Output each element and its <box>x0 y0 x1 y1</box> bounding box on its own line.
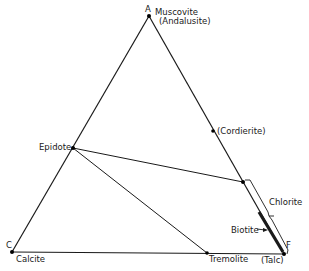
vertex-a-letter: A <box>145 4 151 14</box>
ternary-diagram: A Muscovite (Andalusite) Epidote (Cordie… <box>0 0 309 271</box>
edge-a-c <box>12 16 149 252</box>
point-a <box>147 14 151 18</box>
vertex-f-letter: F <box>286 240 291 250</box>
point-cordierite <box>211 129 215 133</box>
point-chlorite <box>241 180 245 184</box>
chlorite-label: Chlorite <box>269 197 302 207</box>
point-c <box>10 250 14 254</box>
vertex-c-letter: C <box>6 240 12 250</box>
epidote-label: Epidote <box>39 142 71 152</box>
point-epidote <box>71 146 75 150</box>
tie-line-epidote-chlorite <box>73 148 243 182</box>
chlorite-bracket <box>245 180 288 254</box>
tremolite-label: Tremolite <box>208 254 248 264</box>
andalusite-label: (Andalusite) <box>159 16 211 26</box>
biotite-label: Biotite <box>231 225 259 235</box>
tie-line-epidote-tremolite <box>73 148 207 253</box>
cordierite-label: (Cordierite) <box>217 126 266 136</box>
talc-label: (Talc) <box>261 255 284 265</box>
calcite-label: Calcite <box>16 254 45 264</box>
